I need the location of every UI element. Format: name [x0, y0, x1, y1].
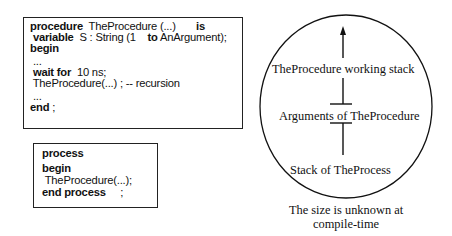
- label-stack-of-process: Stack of TheProcess: [290, 163, 391, 177]
- stack-diagram: TheProcedure working stack Arguments of …: [0, 0, 452, 236]
- arrow-up-icon: [340, 26, 346, 35]
- caption-line-1: The size is unknown at: [289, 203, 404, 217]
- label-arguments: Arguments of TheProcedure: [279, 109, 420, 123]
- caption-line-2: compile-time: [313, 217, 380, 231]
- label-procedure-working-stack: TheProcedure working stack: [272, 62, 415, 76]
